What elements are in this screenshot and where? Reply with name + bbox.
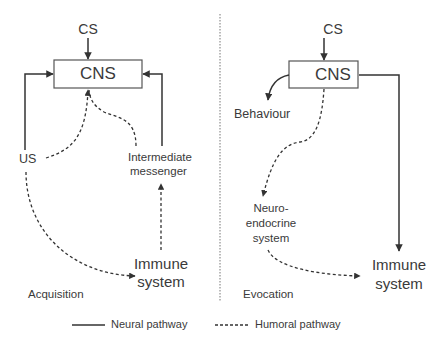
phase-label-evocation: Evocation <box>243 289 294 301</box>
node-immune-right-line2: system <box>375 276 423 291</box>
node-immune-left-line1: Immune <box>134 256 188 271</box>
edge-messenger-cns-neural <box>143 74 162 146</box>
node-cns-left: CNS <box>80 65 116 82</box>
edge-us-cns-neural <box>25 74 53 150</box>
edge-cns-neuroendocrine <box>263 89 324 196</box>
edge-neuroendocrine-immune <box>268 250 360 276</box>
node-intermediate-messenger-line2: messenger <box>130 166 187 178</box>
legend-humoral-label: Humoral pathway <box>255 319 341 330</box>
phase-label-acquisition: Acquisition <box>28 289 84 301</box>
node-cs-left: CS <box>78 22 97 36</box>
legend-neural-label: Neural pathway <box>111 319 187 330</box>
edge-us-immune-humoral <box>26 172 135 276</box>
edge-us-cns-humoral <box>46 90 88 158</box>
node-neuroendocrine-line2: endocrine <box>246 218 297 230</box>
node-immune-left-line2: system <box>137 274 185 289</box>
node-neuroendocrine-line1: Neuro- <box>253 203 288 215</box>
edge-cns-immune-neural <box>359 75 399 251</box>
edge-cns-behaviour <box>268 75 289 100</box>
node-intermediate-messenger-line1: Intermediate <box>128 152 192 164</box>
node-immune-right-line1: Immune <box>372 257 426 272</box>
node-cs-right: CS <box>323 22 342 36</box>
node-neuroendocrine-line3: system <box>253 233 289 245</box>
edge-messenger-cns-humoral <box>89 90 136 146</box>
node-us: US <box>19 153 36 166</box>
node-behaviour: Behaviour <box>234 108 290 121</box>
node-cns-right: CNS <box>315 66 351 83</box>
